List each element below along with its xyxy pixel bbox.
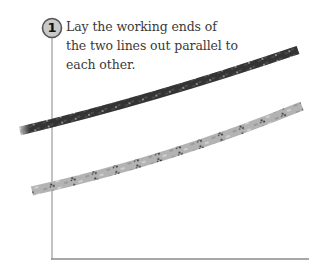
diagram-canvas: 1 Lay the working ends of the two lines … [0, 0, 320, 261]
step-instruction: Lay the working ends of the two lines ou… [66, 17, 316, 74]
instruction-line-2: the two lines out parallel to [66, 36, 316, 55]
instruction-line-3: each other. [66, 55, 316, 74]
instruction-line-1: Lay the working ends of [66, 17, 316, 36]
step-number: 1 [43, 19, 61, 37]
